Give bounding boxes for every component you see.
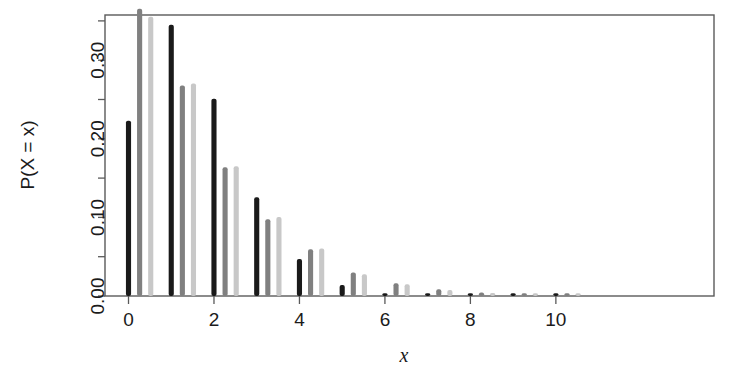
bar <box>137 9 142 296</box>
bar <box>564 293 569 296</box>
bar <box>234 166 239 296</box>
chart-background <box>0 0 747 377</box>
x-axis-title: x <box>399 344 409 366</box>
bar <box>308 249 313 296</box>
y-tick-label: 0.30 <box>87 42 108 79</box>
bar <box>169 25 174 296</box>
bar <box>180 86 185 296</box>
y-axis-title: P(X = x) <box>17 120 38 189</box>
x-tick-label: 8 <box>465 309 476 330</box>
bar <box>276 217 281 296</box>
bar <box>522 293 527 296</box>
bar <box>191 84 196 296</box>
x-tick-label: 10 <box>545 309 566 330</box>
y-tick-label: 0.10 <box>87 199 108 236</box>
bar <box>393 283 398 296</box>
chart-figure: 0.000.100.200.30 0246810 P(X = x) x <box>0 0 747 377</box>
bar <box>425 293 430 296</box>
x-tick-label: 6 <box>380 309 391 330</box>
bar <box>254 197 259 296</box>
x-tick-label: 0 <box>123 309 134 330</box>
bar <box>362 274 367 296</box>
bar <box>319 249 324 296</box>
pmf-chart: 0.000.100.200.30 0246810 P(X = x) x <box>0 0 747 377</box>
bar <box>126 121 131 296</box>
bar <box>447 290 452 296</box>
bar <box>211 99 216 296</box>
bar <box>479 292 484 296</box>
bar <box>436 289 441 296</box>
bar <box>148 17 153 296</box>
bar <box>511 293 516 296</box>
bar <box>405 284 410 296</box>
y-tick-label: 0.20 <box>87 120 108 157</box>
bar <box>340 285 345 296</box>
bar <box>490 293 495 296</box>
y-tick-label: 0.00 <box>87 278 108 315</box>
bar <box>265 219 270 296</box>
x-tick-label: 4 <box>294 309 305 330</box>
bar <box>553 293 558 296</box>
bar <box>351 273 356 296</box>
bar <box>382 293 387 296</box>
bar <box>223 167 228 296</box>
bar <box>533 293 538 296</box>
bar <box>297 259 302 296</box>
bar <box>468 293 473 296</box>
x-tick-label: 2 <box>209 309 220 330</box>
bar <box>576 293 581 296</box>
